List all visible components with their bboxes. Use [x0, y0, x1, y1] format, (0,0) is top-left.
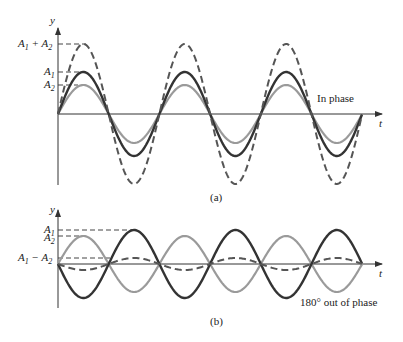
- panel-a-x-label: t: [379, 117, 382, 129]
- panel-b-annotation: 180° out of phase: [300, 296, 377, 308]
- panel-b-x-label: t: [379, 267, 382, 279]
- panel-b-y-label: y: [50, 203, 55, 215]
- panel-a-sum-level: A1 + A2: [18, 37, 52, 52]
- panel-a-a2-level: A2: [44, 78, 55, 93]
- panel-a-annotation: In phase: [317, 92, 354, 104]
- panel-b-caption: (b): [210, 315, 223, 327]
- panel-a-y-label: y: [50, 14, 55, 26]
- panel-a-caption: (a): [210, 191, 222, 203]
- panel-b-diff-level: A1 − A2: [18, 251, 52, 266]
- panel-b-a2-level: A2: [44, 231, 55, 246]
- wave-diagram: [0, 0, 403, 342]
